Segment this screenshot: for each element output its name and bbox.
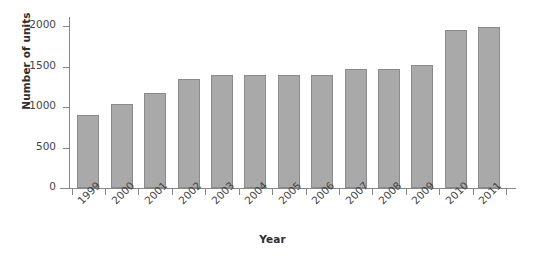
y-tick-label: 0 <box>14 180 56 192</box>
x-tick-mark <box>105 189 106 195</box>
y-tick-mark <box>63 107 69 108</box>
bar <box>345 69 367 188</box>
bar-chart: Number of units 0500100015002000 1999200… <box>0 0 537 256</box>
bar <box>178 79 200 188</box>
x-axis-title-text: Year <box>259 233 285 245</box>
x-tick-mark <box>473 189 474 195</box>
x-axis-title: Year <box>0 233 537 245</box>
x-tick-mark <box>72 189 73 195</box>
x-tick-mark <box>272 189 273 195</box>
y-tick-mark <box>63 67 69 68</box>
bar <box>278 75 300 188</box>
y-tick-mark <box>63 188 69 189</box>
x-tick-mark <box>339 189 340 195</box>
bar <box>378 69 400 188</box>
bar <box>211 75 233 188</box>
bar <box>111 104 133 188</box>
x-tick-mark <box>205 189 206 195</box>
bar <box>77 115 99 188</box>
y-tick-label: 1000 <box>14 99 56 111</box>
y-tick-label: 1500 <box>14 59 56 71</box>
x-tick-mark <box>439 189 440 195</box>
x-tick-mark <box>406 189 407 195</box>
x-tick-mark <box>172 189 173 195</box>
y-tick-mark <box>63 26 69 27</box>
bar <box>411 65 433 188</box>
x-tick-mark <box>506 189 507 195</box>
x-tick-mark <box>138 189 139 195</box>
y-tick-mark <box>63 148 69 149</box>
x-tick-mark <box>239 189 240 195</box>
x-tick-mark <box>372 189 373 195</box>
x-tick-mark <box>306 189 307 195</box>
bar <box>478 27 500 188</box>
bar <box>445 30 467 188</box>
plot-area <box>70 18 516 188</box>
y-tick-label: 500 <box>14 140 56 152</box>
bar <box>144 93 166 188</box>
y-tick-label: 2000 <box>14 18 56 30</box>
bar <box>244 75 266 188</box>
bar <box>311 75 333 188</box>
